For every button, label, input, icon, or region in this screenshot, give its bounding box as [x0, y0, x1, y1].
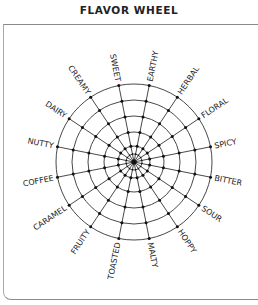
node-dot — [141, 163, 143, 165]
node-dot — [89, 225, 92, 228]
node-dot — [167, 109, 170, 112]
node-dot — [135, 169, 137, 171]
node-dot — [124, 206, 127, 209]
node-dot — [81, 126, 84, 129]
node-dot — [148, 84, 151, 87]
node-dot — [68, 117, 71, 120]
node-dot — [116, 136, 119, 139]
node-dot — [149, 136, 152, 139]
node-dot — [140, 166, 142, 168]
flavor-label-bitter: BITTER — [214, 174, 244, 188]
node-dot — [120, 221, 123, 224]
node-dot — [158, 199, 161, 202]
node-dot — [94, 135, 97, 138]
node-dot — [157, 144, 160, 147]
node-dot — [124, 147, 127, 150]
flavor-label-sour: SOUR — [200, 204, 224, 224]
node-dot — [72, 148, 75, 151]
node-dot — [141, 115, 144, 118]
node-dot — [125, 163, 127, 165]
node-dot — [87, 152, 90, 155]
node-dot — [103, 166, 106, 169]
flavor-label-fruity: FRUITY — [69, 228, 92, 256]
node-dot — [127, 166, 129, 168]
node-dot — [162, 166, 165, 169]
node-dot — [184, 126, 187, 129]
wheel-nodes — [56, 84, 212, 240]
node-dot — [127, 190, 130, 193]
node-dot — [209, 145, 212, 148]
flavor-label-earthy: EARTHY — [146, 50, 161, 83]
node-dot — [135, 153, 137, 155]
node-dot — [184, 195, 187, 198]
node-dot — [157, 177, 160, 180]
node-dot — [127, 131, 130, 134]
node-dot — [56, 145, 59, 148]
node-dot — [81, 195, 84, 198]
node-dot — [94, 186, 97, 189]
node-dot — [119, 152, 122, 155]
node-dot — [107, 122, 110, 125]
node-dot — [148, 237, 151, 240]
node-dot — [148, 157, 151, 160]
node-dot — [178, 152, 181, 155]
flavor-label-coffee: COFFEE — [22, 174, 54, 189]
node-dot — [162, 155, 165, 158]
node-dot — [197, 204, 200, 207]
node-dot — [141, 147, 144, 150]
node-dot — [125, 160, 127, 162]
node-dot — [140, 157, 142, 159]
flavor-label-sweet: SWEET — [108, 53, 122, 82]
node-dot — [171, 186, 174, 189]
node-dot — [138, 168, 140, 170]
node-dot — [117, 157, 120, 160]
node-dot — [68, 204, 71, 207]
node-dot — [178, 169, 181, 172]
node-dot — [108, 177, 111, 180]
node-dot — [145, 100, 148, 103]
node-dot — [98, 212, 101, 215]
node-dot — [138, 155, 140, 157]
node-dot — [149, 185, 152, 188]
node-dot — [87, 169, 90, 172]
flavor-label-spicy: SPICY — [214, 137, 238, 150]
node-dot — [141, 160, 143, 162]
node-dot — [209, 176, 212, 179]
node-dot — [98, 109, 101, 112]
node-dot — [127, 157, 129, 159]
flavor-wheel: SWEETEARTHYHERBALFLORALSPICYBITTERSOURHO… — [0, 0, 258, 305]
wheel-labels: SWEETEARTHYHERBALFLORALSPICYBITTERSOURHO… — [22, 50, 243, 281]
node-dot — [148, 164, 151, 167]
node-dot — [56, 176, 59, 179]
flavor-label-herbal: HERBAL — [176, 64, 202, 96]
node-dot — [117, 237, 120, 240]
node-dot — [136, 176, 139, 179]
node-dot — [171, 135, 174, 138]
node-dot — [103, 155, 106, 158]
node-dot — [117, 84, 120, 87]
node-dot — [108, 144, 111, 147]
flavor-label-malty: MALTY — [146, 242, 160, 269]
flavor-label-toasted: TOASTED — [106, 242, 122, 282]
flavor-label-nutty: NUTTY — [27, 136, 55, 150]
node-dot — [124, 174, 127, 177]
node-dot — [124, 115, 127, 118]
flavor-label-floral: FLORAL — [200, 96, 231, 121]
node-dot — [176, 96, 179, 99]
flavor-label-caramel: CARAMEL — [32, 204, 69, 233]
node-dot — [146, 152, 149, 155]
node-dot — [167, 212, 170, 215]
node-dot — [141, 206, 144, 209]
node-dot — [132, 153, 134, 155]
node-dot — [129, 168, 131, 170]
node-dot — [176, 225, 179, 228]
node-dot — [197, 117, 200, 120]
node-dot — [136, 145, 139, 148]
node-dot — [138, 190, 141, 193]
node-dot — [117, 164, 120, 167]
node-dot — [138, 131, 141, 134]
node-dot — [146, 169, 149, 172]
node-dot — [107, 199, 110, 202]
node-dot — [158, 122, 161, 125]
node-dot — [116, 185, 119, 188]
